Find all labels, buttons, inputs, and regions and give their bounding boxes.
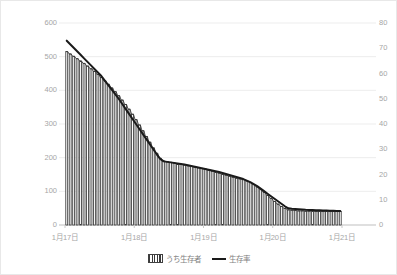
x-axis-tick-label: 1月21日 — [312, 234, 372, 242]
bar — [274, 201, 276, 225]
bar — [138, 125, 140, 225]
bar — [298, 211, 300, 225]
x-axis-tick-label: 1月19日 — [174, 234, 234, 242]
bar — [208, 170, 210, 225]
bar — [319, 212, 321, 225]
bar — [249, 183, 251, 225]
bar — [301, 211, 303, 225]
x-axis-tick-label: 1月18日 — [104, 234, 164, 242]
bar — [197, 168, 199, 225]
bar — [239, 179, 241, 225]
left-axis-tick-label: 400 — [15, 86, 57, 94]
bar — [118, 96, 120, 225]
right-axis-tick-label: 10 — [379, 196, 397, 204]
bar — [291, 210, 293, 225]
bar — [201, 168, 203, 225]
bar — [76, 59, 78, 225]
bar — [187, 166, 189, 225]
bar — [152, 148, 154, 225]
bar — [305, 211, 307, 225]
bar — [166, 162, 168, 225]
bar — [83, 63, 85, 225]
left-axis-tick-label: 500 — [15, 53, 57, 61]
bar — [246, 181, 248, 225]
left-axis-tick-label: 300 — [15, 120, 57, 128]
bar — [204, 169, 206, 225]
bar — [97, 75, 99, 225]
legend-item-survival-rate: 生存率 — [212, 253, 250, 264]
bar — [267, 195, 269, 225]
bar — [100, 78, 102, 225]
bar — [194, 167, 196, 225]
bar — [114, 92, 116, 225]
bar — [325, 212, 327, 225]
bar — [263, 192, 265, 225]
left-axis-tick-label: 0 — [15, 221, 57, 229]
bar — [135, 120, 137, 225]
bar — [329, 212, 331, 225]
bar — [232, 177, 234, 225]
left-axis-tick-label: 200 — [15, 154, 57, 162]
bar — [294, 211, 296, 225]
bar — [235, 178, 237, 225]
bar — [253, 185, 255, 225]
right-axis-tick-label: 20 — [379, 171, 397, 179]
bars-swatch-icon — [148, 254, 163, 263]
bar — [132, 114, 134, 225]
bar — [73, 56, 75, 225]
chart-legend: うち生存者 生存率 — [1, 253, 396, 264]
line-swatch-icon — [212, 258, 226, 260]
right-axis-tick-label: 0 — [379, 221, 397, 229]
bar — [225, 175, 227, 225]
legend-item-survivors: うち生存者 — [148, 253, 201, 264]
bar — [315, 212, 317, 225]
bar — [145, 136, 147, 225]
bar — [184, 165, 186, 225]
bar — [229, 176, 231, 225]
bar — [287, 210, 289, 225]
bar — [156, 153, 158, 225]
bar — [80, 61, 82, 225]
bar — [280, 206, 282, 225]
left-axis-tick-label: 600 — [15, 19, 57, 27]
bar — [66, 52, 68, 225]
bar — [332, 212, 334, 225]
bar — [163, 161, 165, 225]
bar — [87, 66, 89, 225]
bar — [159, 158, 161, 225]
bar — [260, 190, 262, 225]
bar — [222, 174, 224, 225]
bar — [170, 162, 172, 225]
bar — [173, 163, 175, 225]
bar — [270, 198, 272, 225]
bar — [93, 71, 95, 225]
bar — [277, 204, 279, 225]
bar — [218, 173, 220, 225]
x-axis-tick-label: 1月20日 — [243, 234, 303, 242]
bar — [104, 81, 106, 225]
bar — [125, 104, 127, 225]
bar — [339, 212, 341, 225]
right-axis-tick-label: 40 — [379, 120, 397, 128]
bar — [121, 100, 123, 225]
right-axis-tick-label: 80 — [379, 19, 397, 27]
bar — [242, 180, 244, 225]
x-axis-tick-label: 1月17日 — [35, 234, 95, 242]
legend-label-survivors: うち生存者 — [166, 253, 201, 264]
left-axis-tick-label: 100 — [15, 187, 57, 195]
right-axis-tick-label: 50 — [379, 95, 397, 103]
bar — [142, 131, 144, 225]
bar — [190, 166, 192, 225]
bar — [322, 212, 324, 225]
bar — [215, 172, 217, 225]
bar — [128, 109, 130, 225]
bar — [90, 69, 92, 225]
legend-label-survival-rate: 生存率 — [229, 253, 250, 264]
bar — [111, 88, 113, 225]
bar — [107, 84, 109, 225]
bar — [336, 212, 338, 225]
right-axis-tick-label: 70 — [379, 44, 397, 52]
bar — [177, 164, 179, 225]
bar — [312, 211, 314, 225]
bar — [211, 171, 213, 225]
